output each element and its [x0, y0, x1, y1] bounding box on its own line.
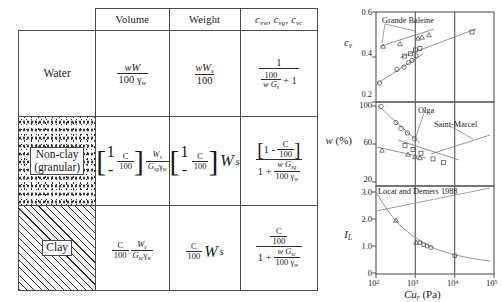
- ncv-tail-fraction: Ws Gsgγw: [146, 150, 169, 172]
- cv-tail-den-tail-sub: w: [147, 255, 151, 261]
- cc-top-den: 100: [272, 236, 285, 246]
- ncv-c-fraction: C 100: [117, 152, 134, 171]
- clay-weight-formula: C 100 Ws: [186, 242, 224, 261]
- ww-num-sub: s: [211, 67, 214, 74]
- series-il-markers: [394, 218, 457, 258]
- panel-frame-w: [376, 102, 494, 186]
- ncc-bot-lead: 1 +: [258, 166, 272, 177]
- cw-c-fraction: C 100: [186, 242, 203, 261]
- water-conc-cell: 1 100 w Gs + 1: [240, 31, 317, 117]
- panel-frame-cv: [376, 12, 494, 102]
- soil-phase-table: Volume Weight cvw, cvg, cvc Water wW 100: [18, 8, 318, 291]
- ncw-c-fraction: C 100: [192, 152, 209, 171]
- row-label-water-cell: Water: [19, 31, 96, 117]
- series-w-saint-marcel-line: [431, 135, 490, 154]
- wv-den-sub: w: [142, 79, 147, 86]
- row-label-nonclay: Non-clay (granular): [30, 147, 84, 175]
- water-weight-cell: wWs 100: [169, 31, 240, 117]
- header-concentration: cvw, cvg, cvc: [240, 9, 317, 31]
- nonclay-conc-formula: 1 - C 100 1 +: [255, 140, 302, 182]
- conc-sub1: vw: [260, 19, 268, 26]
- cv-tail-fraction: Ws Gscγw: [131, 240, 153, 262]
- xtick-marks: [376, 274, 494, 278]
- cw-tail: W: [204, 243, 217, 261]
- table-header-row: Volume Weight cvw, cvg, cvc: [19, 9, 318, 31]
- series-cv-triangles: [380, 29, 434, 48]
- cc-bot-num: w G: [277, 246, 291, 256]
- xtick-1e3-exp: 3: [416, 279, 419, 285]
- wc-inner-den: w G: [263, 79, 277, 89]
- soil-phase-table-panel: Volume Weight cvw, cvg, cvc Water wW 100: [18, 8, 318, 291]
- cv-tail-num-sub: s: [144, 243, 146, 249]
- row-label-clay-cell: Clay: [19, 206, 96, 291]
- cc-bot-den: 100 γ: [276, 257, 295, 267]
- wc-inner-den-sub: s: [277, 84, 279, 90]
- cw-c-den: 100: [188, 251, 201, 261]
- nonclay-volume-formula: 1 - C 100 Ws Gsgγw: [96, 143, 168, 179]
- xtick-1e2-base: 10: [368, 278, 377, 288]
- cc-bot-fraction: w Gsc 100 γw: [274, 247, 300, 269]
- row-label-water: Water: [44, 67, 71, 80]
- ncw-tail-sub: s: [236, 156, 240, 167]
- ncv-tail-num-sub: s: [160, 154, 162, 160]
- row-label-clay: Clay: [42, 240, 72, 255]
- annotation-grande-baleine: Grande Baleine: [382, 16, 434, 25]
- header-corner-blank: [19, 9, 96, 31]
- wc-plus: + 1: [283, 75, 297, 86]
- clay-conc-formula: C 100 1 + w Gsc 100 γw: [256, 227, 302, 269]
- header-volume: Volume: [96, 9, 169, 31]
- cw-tail-sub: s: [220, 246, 224, 257]
- series-cv-circles: [377, 54, 423, 85]
- wc-num: 1: [276, 57, 281, 68]
- axis-title-cur: Cur (Pa): [404, 288, 441, 302]
- ncc-bot-den-sub: w: [294, 175, 298, 181]
- ncc-top-den: 100: [279, 149, 292, 159]
- series-w-circles: [378, 104, 420, 143]
- xtick-1e2: 102: [368, 278, 379, 288]
- ncc-bot-fraction: w Gsg 100 γw: [274, 160, 300, 182]
- cv-c-den: 100: [114, 250, 127, 260]
- ncv-tail-den-tail-sub: w: [163, 165, 167, 171]
- cv-c-fraction: C 100: [112, 241, 129, 260]
- ww-num: wW: [195, 62, 211, 73]
- ncw-tail: W: [220, 152, 233, 170]
- nonclay-weight-bracket: 1 - C 100: [170, 143, 219, 179]
- annotation-olga: Olga: [418, 106, 434, 115]
- table-row-water: Water wW 100 γw wWs 100 1: [19, 31, 318, 117]
- ncv-tail-num: W: [153, 149, 160, 159]
- wc-inner-num: 100: [265, 70, 278, 80]
- ncc-top-fraction: C 100: [277, 140, 294, 159]
- axis-title-cur-unit: (Pa): [420, 288, 441, 300]
- conc-sub3: vc: [296, 19, 303, 26]
- nonclay-weight-cell: 1 - C 100 Ws: [169, 117, 240, 206]
- annotation-source-note: Locat and Demers 1988: [378, 187, 458, 196]
- ncc-bot-den: 100 γ: [276, 171, 295, 181]
- ncw-c-num: C: [197, 151, 203, 161]
- xtick-1e4: 104: [447, 278, 458, 288]
- cc-bot-den-sub: w: [294, 262, 298, 268]
- xtick-1e3: 103: [407, 278, 418, 288]
- ytick-marks: [372, 12, 376, 273]
- row-label-nonclay-line1: Non-clay: [36, 148, 79, 160]
- xtick-1e4-exp: 4: [456, 279, 459, 285]
- annotation-saint-marcel: Saint-Marcel: [434, 120, 477, 129]
- cc-top-fraction: C 100: [270, 227, 287, 246]
- ww-den: 100: [197, 75, 213, 86]
- ncv-c-den: 100: [119, 161, 132, 171]
- cc-bot-num-sub: sc: [291, 251, 296, 257]
- header-weight-label: Weight: [189, 14, 220, 25]
- ncv-c-num: C: [123, 151, 129, 161]
- axis-title-cur-main: Cu: [404, 288, 417, 300]
- chart-svg: [330, 6, 500, 298]
- xtick-1e3-base: 10: [407, 278, 416, 288]
- clay-weight-cell: C 100 Ws: [169, 206, 240, 291]
- row-label-nonclay-line2: (granular): [34, 161, 80, 173]
- wv-den: 100 γ: [119, 74, 142, 85]
- xtick-1e5-base: 10: [486, 278, 495, 288]
- nonclay-volume-cell: 1 - C 100 Ws Gsgγw: [96, 117, 169, 206]
- clay-volume-formula: C 100 Ws Gscγw: [112, 240, 153, 262]
- ncw-lead: 1 -: [179, 143, 189, 179]
- series-w-squares: [398, 140, 459, 165]
- wv-num: wW: [125, 62, 141, 73]
